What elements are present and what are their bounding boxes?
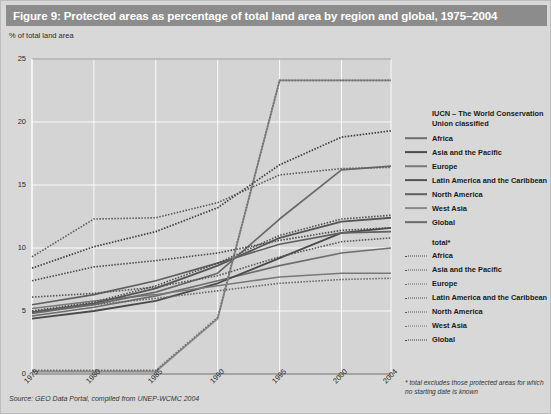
legend-item[interactable]: Global [405,215,549,229]
legend-item[interactable]: Global [405,333,549,347]
legend-item[interactable]: North America [405,187,549,201]
legend-item[interactable]: Asia and the Pacific [405,263,549,277]
legend-line-swatch-icon [405,189,427,199]
legend-item-label: West Asia [432,321,467,330]
legend-item-label: Asia and the Pacific [432,148,502,157]
legend-line-swatch-icon [405,217,427,227]
figure-container: Figure 9: Protected areas as percentage … [0,0,551,414]
legend-item[interactable]: North America [405,305,549,319]
y-axis-tick-label: 25 [10,54,26,63]
legend-line-swatch-icon [405,175,427,185]
legend-item-label: Europe [432,162,457,171]
legend-line-swatch-icon [405,293,427,303]
legend-line-swatch-icon [405,321,427,331]
legend-item[interactable]: Europe [405,277,549,291]
legend-line-swatch-icon [405,147,427,157]
legend-line-swatch-icon [405,133,427,143]
legend-item-label: North America [432,190,483,199]
legend-item-label: Global [432,218,455,227]
y-axis-tick-label: 20 [10,117,26,126]
legend-item[interactable]: Africa [405,131,549,145]
legend-item[interactable]: Asia and the Pacific [405,145,549,159]
legend-line-swatch-icon [405,335,427,345]
legend-item[interactable]: Europe [405,159,549,173]
legend-line-swatch-icon [405,251,427,261]
legend-line-swatch-icon [405,203,427,213]
legend-item[interactable]: West Asia [405,201,549,215]
legend-item[interactable]: West Asia [405,319,549,333]
y-axis-tick-label: 15 [10,180,26,189]
legend-line-swatch-icon [405,265,427,275]
legend-item-label: Latin America and the Caribbean [432,293,547,302]
legend-item-label: Africa [432,251,453,260]
legend-item-label: Africa [432,134,453,143]
legend-line-swatch-icon [405,307,427,317]
legend-line-swatch-icon [405,279,427,289]
legend-item-label: Global [432,335,455,344]
source-text: Source: GEO Data Portal, compiled from U… [9,395,199,402]
legend-item[interactable]: Latin America and the Caribbean [405,173,549,187]
y-axis-tick-label: 10 [10,243,26,252]
legend-item-label: North America [432,307,483,316]
footnote-text: * total excludes those protected areas f… [405,379,551,396]
legend-item-label: Latin America and the Caribbean [432,176,547,185]
legend-group-iucn: AfricaAsia and the PacificEuropeLatin Am… [405,131,549,229]
legend-group-title-total: total* [432,238,549,248]
legend-item[interactable]: Africa [405,249,549,263]
legend-item-label: Asia and the Pacific [432,265,502,274]
legend-line-swatch-icon [405,161,427,171]
plot-background [32,59,391,374]
legend-group-total: AfricaAsia and the PacificEuropeLatin Am… [405,249,549,347]
legend-group-title-iucn: IUCN – The World Conservation Union clas… [432,109,549,128]
chart-legend: IUCN – The World Conservation Union clas… [405,109,549,347]
y-axis-tick-label: 5 [10,306,26,315]
legend-item-label: West Asia [432,204,467,213]
legend-item-label: Europe [432,279,457,288]
legend-item[interactable]: Latin America and the Caribbean [405,291,549,305]
